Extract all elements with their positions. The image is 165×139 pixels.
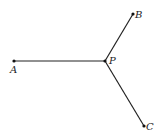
label-c: C [146, 122, 154, 132]
segment-pc [105, 61, 144, 126]
label-a: A [10, 65, 17, 75]
geometry-diagram: A P B C [0, 0, 165, 139]
label-b: B [135, 10, 142, 20]
segment-pb [105, 14, 133, 61]
diagram-svg [0, 0, 165, 139]
point-a [12, 59, 15, 62]
label-p: P [109, 56, 116, 66]
point-p [103, 59, 106, 62]
